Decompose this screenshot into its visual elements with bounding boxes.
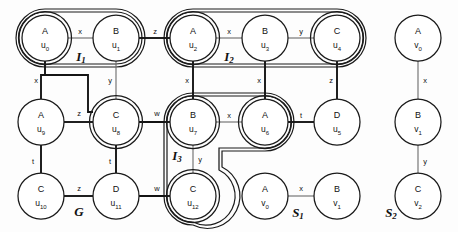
node-type-label-s2v2: C: [415, 184, 422, 194]
node-u7[interactable]: Bu7: [167, 96, 220, 149]
node-u1[interactable]: Bu1: [93, 15, 139, 61]
edge-label-u9-u10: t: [32, 157, 35, 166]
node-u12[interactable]: Cu12: [167, 170, 220, 223]
node-type-label-u11: D: [113, 184, 120, 194]
node-type-label-u2: A: [190, 26, 196, 36]
edge-label-u1-u8: y: [108, 76, 112, 85]
edge-labels-layer: x z x y x y x x z z w x t t t y z w x x …: [32, 27, 427, 193]
edge-label-u10-u11: z: [77, 184, 81, 193]
node-circle-s2v1[interactable]: [395, 99, 441, 145]
node-u3[interactable]: Bu3: [242, 15, 288, 61]
edge-label-u3-u6: x: [257, 76, 261, 85]
node-type-label-u3: B: [262, 26, 268, 36]
node-circle-u10[interactable]: [18, 173, 64, 219]
edge-label-u11-u12: w: [153, 184, 160, 193]
node-type-label-s2v1: B: [415, 110, 421, 120]
edge-label-s2v1-s2v2: y: [423, 157, 427, 166]
node-type-label-u4: C: [334, 26, 341, 36]
node-circle-s2v0[interactable]: [395, 15, 441, 61]
edge-label-u4-u5: z: [329, 76, 333, 85]
node-type-label-u6: A: [262, 110, 268, 120]
node-type-label-u10: C: [38, 184, 45, 194]
node-u6[interactable]: Au6: [239, 96, 292, 149]
node-u11[interactable]: Du11: [93, 173, 139, 219]
region-label-I3: I3: [171, 148, 182, 164]
edge-label-u9-u8: z: [77, 109, 81, 118]
node-circle-u5[interactable]: [314, 99, 360, 145]
node-type-label-u5: D: [334, 110, 341, 120]
node-s1v1[interactable]: Bv1: [314, 173, 360, 219]
node-circle-s1v1[interactable]: [314, 173, 360, 219]
node-circle-u12[interactable]: [170, 173, 216, 219]
edge-label-s2v0-s2v1: x: [423, 76, 427, 85]
graph-label-S2: S2: [385, 205, 397, 221]
node-u10[interactable]: Cu10: [18, 173, 64, 219]
edge-label-u8-u11: t: [109, 157, 112, 166]
edge-label-u2-u7: x: [185, 76, 189, 85]
node-type-label-s1v1: B: [334, 184, 340, 194]
node-type-label-s1v0: A: [262, 184, 268, 194]
node-type-label-u7: B: [190, 110, 196, 120]
node-circle-u4[interactable]: [314, 15, 360, 61]
edge-label-u2-u3: x: [227, 27, 231, 36]
node-u0[interactable]: Au0: [19, 12, 72, 65]
edge-label-u0-u1: x: [78, 27, 82, 36]
node-circle-u2[interactable]: [170, 15, 216, 61]
node-type-label-u0: A: [42, 26, 48, 36]
node-type-label-u12: C: [190, 184, 197, 194]
node-circle-u3[interactable]: [242, 15, 288, 61]
region-label-I2: I2: [223, 49, 234, 65]
node-type-label-s2v0: A: [415, 26, 421, 36]
node-s1v0[interactable]: Av0: [242, 173, 288, 219]
node-circle-u6[interactable]: [242, 99, 288, 145]
node-circle-u9[interactable]: [18, 99, 64, 145]
node-circle-s1v0[interactable]: [242, 173, 288, 219]
edge-label-u6-u5: t: [300, 111, 303, 120]
node-s2v1[interactable]: Bv1: [395, 99, 441, 145]
node-type-label-u1: B: [113, 26, 119, 36]
node-type-label-u9: A: [38, 110, 44, 120]
node-circle-u8[interactable]: [93, 99, 139, 145]
figure-canvas: x z x y x y x x z z w x t t t y z w x x …: [0, 0, 458, 232]
node-s2v2[interactable]: Cv2: [395, 173, 441, 219]
graph-label-G: G: [74, 204, 84, 219]
node-s2v0[interactable]: Av0: [395, 15, 441, 61]
node-u5[interactable]: Du5: [314, 99, 360, 145]
node-circle-u7[interactable]: [170, 99, 216, 145]
edge-label-s1v0-s1v1: x: [299, 184, 303, 193]
edge-label-u8-u7: w: [153, 109, 160, 118]
edge-label-u1-u2: z: [153, 27, 157, 36]
node-circle-u0[interactable]: [22, 15, 68, 61]
graph-label-S1: S1: [292, 205, 304, 221]
node-circle-u1[interactable]: [93, 15, 139, 61]
node-u8[interactable]: Cu8: [90, 96, 143, 149]
graph-diagram: x z x y x y x x z z w x t t t y z w x x …: [0, 0, 458, 232]
node-circle-u11[interactable]: [93, 173, 139, 219]
node-u4[interactable]: Cu4: [311, 12, 364, 65]
node-u9[interactable]: Au9: [18, 99, 64, 145]
node-type-label-u8: C: [113, 110, 120, 120]
node-circle-s2v2[interactable]: [395, 173, 441, 219]
edge-label-u7-u12: y: [198, 155, 202, 164]
edge-label-u0-u9: x: [34, 76, 38, 85]
edge-label-u7-u6: x: [227, 111, 231, 120]
region-label-I1: I1: [75, 49, 86, 65]
edge-label-u3-u4: y: [299, 27, 303, 36]
node-u2[interactable]: Au2: [167, 12, 220, 65]
